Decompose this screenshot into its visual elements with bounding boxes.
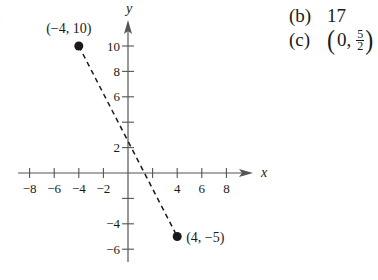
point-marker (173, 232, 182, 241)
x-tick-label: 4 (174, 181, 181, 196)
y-tick-label: 10 (107, 39, 120, 54)
answer-c-fraction: 5 2 (356, 29, 364, 52)
answer-c: (c) ( 0, 5 2 ) (289, 28, 373, 52)
y-tick-label: 6 (114, 89, 121, 104)
x-tick-label: 8 (223, 181, 230, 196)
answer-b-value: 17 (327, 5, 346, 27)
y-axis-label: y (124, 1, 133, 16)
x-tick-label: 6 (199, 181, 206, 196)
answer-c-close-paren: ) (365, 27, 373, 52)
answer-c-open-paren: ( (327, 27, 335, 52)
x-tick-label: −4 (72, 181, 86, 196)
answer-c-label: (c) (289, 29, 327, 51)
x-tick-label: −8 (23, 181, 37, 196)
answers-panel: (b) 17 (c) ( 0, 5 2 ) (289, 4, 373, 52)
x-axis-label: x (260, 165, 268, 180)
point-label: (4, −5) (186, 230, 225, 246)
y-tick-label: 2 (114, 140, 121, 155)
points: (−4, 10)(4, −5) (46, 21, 225, 246)
answer-b-label: (b) (289, 5, 327, 27)
figure: ) xy −8−6−4−2468−6−426810 (−4, 10)(4, −5… (0, 0, 378, 280)
y-tick-label: −4 (106, 216, 120, 231)
axes: xy (18, 1, 268, 262)
x-tick-label: −2 (96, 181, 110, 196)
y-tick-label: −6 (106, 242, 120, 257)
point-marker (74, 42, 83, 51)
x-tick-label: −6 (47, 181, 61, 196)
point-label: (−4, 10) (46, 21, 92, 37)
fraction-denominator: 2 (356, 41, 364, 52)
y-tick-label: 8 (114, 64, 121, 79)
answer-c-x: 0, (337, 29, 351, 51)
ticks: −8−6−4−2468−6−426810 (23, 39, 230, 257)
